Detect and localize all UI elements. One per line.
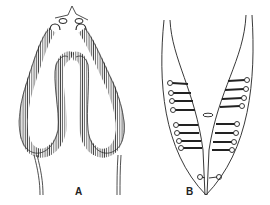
diagram-drawing [0,0,270,205]
panel-label-a: A [75,186,82,197]
panel-a-drawing [19,6,124,195]
figure: A B [0,0,270,205]
panel-b-drawing [162,15,253,195]
left-rods [168,81,203,151]
panel-label-b: B [186,186,193,197]
right-rods [212,78,250,153]
central-oval [203,113,213,117]
